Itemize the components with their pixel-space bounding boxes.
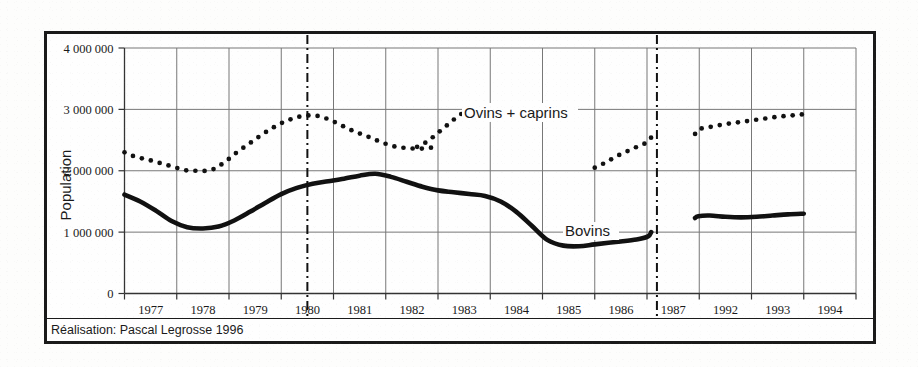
ovins-data-dot xyxy=(772,115,777,120)
ovins-data-dot xyxy=(193,168,198,173)
ovins-data-dot xyxy=(754,117,759,122)
ovins-data-dot xyxy=(410,146,415,151)
ovins-data-dot xyxy=(139,156,144,161)
ovins-data-dot xyxy=(609,157,614,162)
y-tick-label: 1 000 000 xyxy=(64,226,114,240)
ovins-data-dot xyxy=(634,145,639,150)
ovins-data-dot xyxy=(166,163,171,168)
ovins-data-dot xyxy=(736,120,741,125)
ovins-data-dot xyxy=(148,158,153,163)
x-tick-label: 1977 xyxy=(138,303,163,317)
ovins-data-dot xyxy=(592,165,597,170)
ovins-data-dot xyxy=(392,144,397,149)
population-chart: 01 000 0002 000 0003 000 0004 000 000 19… xyxy=(0,0,918,367)
ovins-data-dot xyxy=(781,114,786,119)
x-tick-label: 1981 xyxy=(347,303,372,317)
ovins-data-dot xyxy=(358,131,363,136)
x-tick-label: 1983 xyxy=(452,303,477,317)
y-tick-label: 4 000 000 xyxy=(64,42,114,56)
ovins-data-dot xyxy=(241,145,246,150)
ovins-data-dot xyxy=(617,153,622,158)
ovins-data-dot xyxy=(708,125,713,130)
ovins-data-dot xyxy=(430,135,435,140)
ovins-data-dot xyxy=(745,119,750,124)
ovins-data-dot xyxy=(249,140,254,145)
y-tick-label: 0 xyxy=(107,287,113,301)
ovins-data-dot xyxy=(699,126,704,131)
ovins-data-dot xyxy=(726,121,731,126)
attribution-text: Réalisation: Pascal Legrosse 1996 xyxy=(51,323,244,337)
ovins-data-dot xyxy=(601,161,606,166)
ovins-data-dot xyxy=(375,138,380,143)
ovins-data-dot xyxy=(649,135,654,140)
x-tick-label: 1987 xyxy=(661,303,686,317)
ovins-data-dot xyxy=(383,141,388,146)
ovins-data-dot xyxy=(717,123,722,128)
ovins-data-dot xyxy=(256,135,261,140)
ovins-data-dot xyxy=(763,116,768,121)
ovins-data-dot xyxy=(423,140,428,145)
ovins-data-dot xyxy=(693,132,698,137)
ovins-data-dot xyxy=(625,149,630,154)
ovins-data-dot xyxy=(437,129,442,134)
ovins-data-dot xyxy=(234,151,239,156)
ovins-data-dot xyxy=(324,116,329,121)
ovins-data-dot xyxy=(799,112,804,117)
bovins-series-label: Bovins xyxy=(565,222,610,239)
ovins-data-dot xyxy=(366,134,371,139)
ovins-data-dot xyxy=(184,168,189,173)
ovins-data-dot xyxy=(272,125,277,130)
ovins-data-dot xyxy=(288,117,293,122)
ovins-data-dot xyxy=(306,113,311,118)
ovins-data-dot xyxy=(341,124,346,129)
ovins-data-dot xyxy=(219,162,224,167)
ovins-data-dot xyxy=(790,113,795,118)
ovins-data-dot xyxy=(211,167,216,172)
ovins-series-label: Ovins + caprins xyxy=(464,104,568,121)
ovins-data-dot xyxy=(122,150,127,155)
x-tick-label: 1984 xyxy=(504,303,530,317)
ovins-data-dot xyxy=(419,146,424,151)
ovins-data-dot xyxy=(131,154,136,159)
ovins-data-dot xyxy=(175,166,180,171)
y-axis-title: Population xyxy=(57,150,74,221)
ovins-data-dot xyxy=(401,145,406,150)
ovins-data-dot xyxy=(429,145,434,150)
x-tick-label: 1994 xyxy=(817,303,843,317)
ovins-data-dot xyxy=(452,117,457,122)
x-tick-label: 1993 xyxy=(765,303,790,317)
ovins-data-dot xyxy=(280,121,285,126)
x-tick-label: 1980 xyxy=(295,303,320,317)
ovins-data-dot xyxy=(332,120,337,125)
ovins-data-dot xyxy=(642,141,647,146)
ovins-data-dot xyxy=(297,114,302,119)
ovins-data-dot xyxy=(444,123,449,128)
x-tick-label: 1978 xyxy=(190,303,215,317)
x-tick-label: 1985 xyxy=(556,303,581,317)
ovins-data-dot xyxy=(315,114,320,119)
ovins-data-dot xyxy=(415,144,420,149)
x-tick-label: 1992 xyxy=(713,303,738,317)
x-tick-label: 1979 xyxy=(243,303,268,317)
ovins-data-dot xyxy=(202,169,207,174)
ovins-data-dot xyxy=(349,128,354,133)
x-tick-label: 1986 xyxy=(608,303,633,317)
ovins-data-dot xyxy=(264,130,269,135)
x-tick-label: 1982 xyxy=(399,303,424,317)
figure-container: 01 000 0002 000 0003 000 0004 000 000 19… xyxy=(0,0,918,367)
ovins-data-dot xyxy=(157,161,162,166)
y-tick-label: 3 000 000 xyxy=(64,103,114,117)
ovins-data-dot xyxy=(226,157,231,162)
chart-frame xyxy=(46,33,875,343)
